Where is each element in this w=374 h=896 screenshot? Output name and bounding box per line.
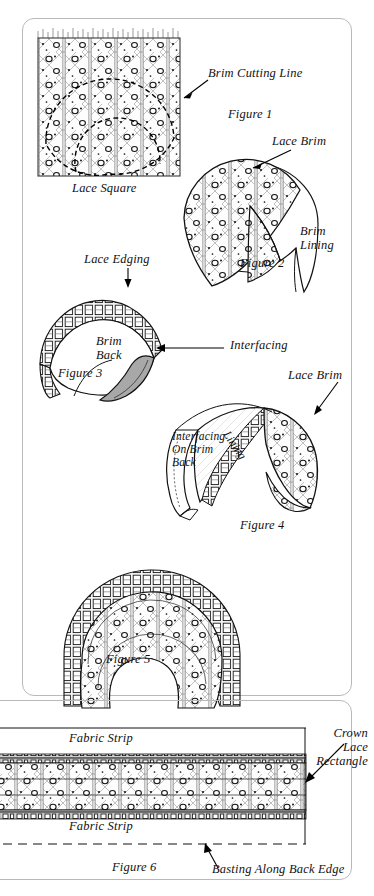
caption-figure-1: Figure 1 <box>228 107 273 121</box>
illustration-page: Brim Cutting Line Figure 1 Lace Square L… <box>0 0 374 896</box>
label-crown-lace-rectangle-text: CrownLaceRectangle <box>302 726 368 768</box>
upper-insertion-trim <box>0 754 306 763</box>
label-lace-edging: Lace Edging <box>84 252 150 266</box>
lace-square-swatch <box>38 38 180 176</box>
label-lace-brim-fig4: Lace Brim <box>288 368 342 382</box>
label-brim-lining: BrimLining <box>300 196 334 280</box>
caption-figure-3: Figure 3 <box>58 366 103 380</box>
label-basting-along-back-edge: Basting Along Back Edge <box>212 862 344 876</box>
label-brim-back-text: BrimBack <box>96 334 122 362</box>
caption-figure-6: Figure 6 <box>112 860 157 874</box>
lace-fringe <box>38 28 178 38</box>
label-fabric-strip-bottom: Fabric Strip <box>69 819 133 833</box>
crown-lace-band <box>0 763 306 810</box>
caption-figure-2: Figure 2 <box>240 256 285 270</box>
lower-insertion-trim <box>0 810 306 819</box>
figure-2-lace-brim-arrow <box>243 142 363 188</box>
figure-6-crown-lace-rectangle <box>0 722 308 862</box>
label-crown-lace-rectangle: CrownLaceRectangle <box>302 698 368 796</box>
caption-figure-4: Figure 4 <box>240 518 285 532</box>
label-interfacing-on-brim-back: InterfacingOn BrimBack <box>172 404 225 495</box>
figure-3-lace-edging-arrow <box>118 266 158 298</box>
figure-5-gathered-brim <box>52 538 262 708</box>
label-interfacing-on-brim-back-text: InterfacingOn BrimBack <box>172 430 225 469</box>
label-interfacing: Interfacing <box>230 338 288 352</box>
figure-1-lace-square <box>36 26 196 186</box>
caption-figure-5: Figure 5 <box>106 652 151 666</box>
label-brim-cutting-line: Brim Cutting Line <box>208 66 302 80</box>
label-lace-brim-fig2: Lace Brim <box>272 134 326 148</box>
figure-4-lace-brim-arrow <box>300 378 370 424</box>
label-lace-square: Lace Square <box>72 181 137 195</box>
label-fabric-strip-top: Fabric Strip <box>69 731 133 745</box>
label-brim-lining-text: BrimLining <box>300 224 334 252</box>
